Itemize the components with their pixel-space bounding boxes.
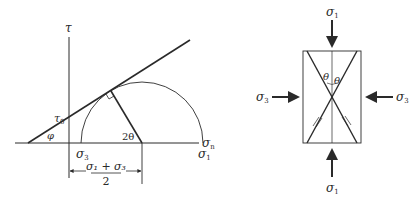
right-sigma3-label: σ3 <box>396 90 409 105</box>
phi-label: φ <box>47 130 54 141</box>
fraction-denominator: 2 <box>103 175 110 188</box>
theta-right-label: θ <box>334 75 340 86</box>
left-sigma3-label: σ3 <box>256 90 269 105</box>
diagram-canvas: τ σn τ0 φ 2θ σ3 σ1 σ₁ + σ₃ 2 θ θ <box>0 0 420 199</box>
mohr-diagram: τ σn τ0 φ 2θ σ3 σ1 σ₁ + σ₃ 2 <box>15 21 215 188</box>
fraction-numerator: σ₁ + σ₃ <box>86 160 126 173</box>
tau-axis-label: τ <box>65 21 72 35</box>
theta-left-label: θ <box>323 71 329 82</box>
two-theta-label: 2θ <box>122 131 134 142</box>
top-sigma1-label: σ1 <box>326 5 339 20</box>
bottom-sigma1-label: σ1 <box>326 181 339 196</box>
tau0-label: τ0 <box>54 112 65 126</box>
failure-envelope <box>28 40 190 143</box>
mohr-circle <box>81 82 203 143</box>
specimen-diagram: θ θ σ1 σ1 σ3 σ3 <box>256 5 409 196</box>
